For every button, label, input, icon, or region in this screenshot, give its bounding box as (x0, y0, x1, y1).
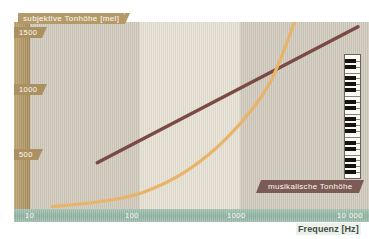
piano-white-key-divider (345, 137, 361, 138)
piano-black-key (345, 141, 356, 145)
chart-figure: subjektive Tonhöhe [mel] 1500 1000 500 1… (0, 0, 369, 239)
legend-musical-pitch: musikalische Tonhöhe (261, 180, 359, 193)
piano-white-key-divider (345, 155, 361, 156)
piano-white-key-divider (345, 73, 361, 74)
piano-black-key (345, 129, 356, 133)
piano-black-key (345, 82, 356, 86)
piano-black-key (345, 147, 356, 151)
piano-black-key (345, 100, 356, 104)
piano-black-key (345, 170, 356, 174)
piano-black-key (345, 106, 356, 110)
piano-black-key (345, 164, 356, 168)
piano-black-key (345, 123, 356, 127)
piano-black-key (345, 88, 356, 92)
piano-white-key-divider (345, 96, 361, 97)
plot-area (0, 0, 369, 239)
piano-keyboard-icon (344, 54, 361, 179)
series-musical-pitch (52, 22, 294, 207)
piano-black-key (345, 76, 356, 80)
piano-black-key (345, 117, 356, 121)
piano-black-key (345, 65, 356, 69)
piano-black-key (345, 158, 356, 162)
series-subjective-pitch (97, 27, 358, 163)
piano-white-key-divider (345, 114, 361, 115)
piano-black-key (345, 59, 356, 63)
